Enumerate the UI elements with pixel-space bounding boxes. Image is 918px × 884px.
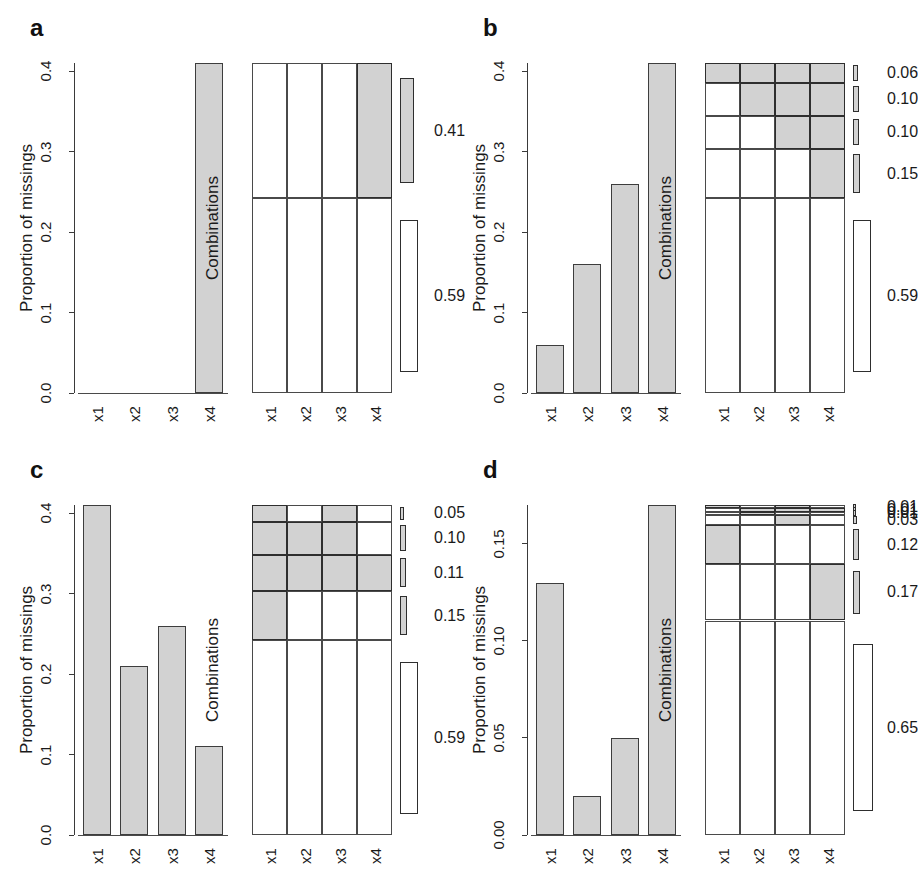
combination-col-label-text: x3	[784, 406, 801, 422]
combination-cell	[357, 198, 392, 393]
legend-proportion-bar	[400, 78, 414, 184]
combination-cell	[775, 149, 810, 199]
combination-cell	[740, 564, 775, 620]
combination-cell	[810, 525, 845, 565]
combination-cell	[740, 515, 775, 525]
combination-cell	[810, 564, 845, 620]
y-axis-title-combinations: Combinations	[202, 123, 224, 333]
combination-cell	[705, 149, 740, 199]
combination-cell	[252, 522, 287, 555]
combination-col-label-x3: x3	[325, 841, 355, 871]
combination-col-label-text: x1	[261, 406, 278, 422]
legend-proportion-label: 0.59	[887, 288, 918, 304]
combination-col-label-text: x2	[296, 848, 313, 864]
combination-col-label-x1: x1	[708, 399, 738, 429]
combination-cell	[287, 505, 322, 522]
combination-cell	[705, 198, 740, 393]
legend-proportion-bar	[853, 529, 859, 560]
combination-cell	[357, 505, 392, 522]
legend-proportion-label: 0.15	[887, 166, 918, 182]
legend-proportion-label: 0.06	[887, 65, 918, 81]
combination-cell	[705, 515, 740, 525]
combination-cell	[775, 63, 810, 83]
combination-cell	[252, 63, 287, 198]
legend-proportion-bar	[853, 220, 871, 372]
combination-cell	[357, 63, 392, 198]
combination-cell	[705, 525, 740, 565]
combination-col-label-text: x4	[366, 848, 383, 864]
legend-proportion-bar	[853, 644, 873, 811]
combinations-plot-d: Combinations0.010.010.010.030.120.170.65…	[453, 442, 906, 884]
legend-proportion-label: 0.65	[887, 720, 918, 736]
combination-col-label-x3: x3	[325, 399, 355, 429]
combination-cell	[252, 555, 287, 591]
combination-cell	[705, 63, 740, 83]
combination-cell	[287, 640, 322, 835]
combination-col-label-x2: x2	[743, 841, 773, 871]
combination-cell	[252, 505, 287, 522]
legend-proportion-label: 0.10	[887, 124, 918, 140]
combination-col-label-x1: x1	[255, 841, 285, 871]
y-axis-title-combinations: Combinations	[202, 565, 224, 775]
combination-cell	[740, 63, 775, 83]
legend-proportion-label: 0.03	[887, 512, 918, 528]
combination-cell	[775, 621, 810, 836]
combination-cell	[810, 515, 845, 525]
panel-c: cProportion of missings0.00.10.20.30.4x1…	[0, 442, 453, 884]
combinations-plot-c: Combinations0.050.100.110.150.59x1x2x3x4	[0, 442, 453, 884]
combination-cell	[322, 555, 357, 591]
combination-cell	[252, 198, 287, 393]
legend-proportion-bar	[853, 571, 860, 615]
combination-cell	[810, 63, 845, 83]
combination-cell	[322, 63, 357, 198]
combination-cell	[287, 555, 322, 591]
combination-col-label-x4: x4	[360, 399, 390, 429]
combination-cell	[775, 116, 810, 149]
legend-proportion-bar	[400, 596, 407, 635]
y-axis-title-combinations: Combinations	[655, 565, 677, 775]
legend-proportion-label: 0.12	[887, 537, 918, 553]
combination-cell	[252, 640, 287, 835]
combinations-plot-b: Combinations0.060.100.100.150.59x1x2x3x4	[453, 0, 906, 442]
panel-a: aProportion of missings0.00.10.20.30.4x1…	[0, 0, 453, 442]
combination-cell	[322, 198, 357, 393]
combination-col-label-x2: x2	[290, 841, 320, 871]
legend-proportion-bar	[853, 119, 859, 145]
combination-col-label-x1: x1	[255, 399, 285, 429]
combination-col-label-text: x3	[331, 406, 348, 422]
combination-cell	[287, 591, 322, 641]
combination-cell	[810, 149, 845, 199]
legend-proportion-bar	[400, 525, 406, 551]
combination-cell	[740, 198, 775, 393]
combination-cell	[705, 564, 740, 620]
combination-cell	[705, 83, 740, 116]
combination-col-label-text: x2	[296, 406, 313, 422]
combination-cell	[810, 116, 845, 149]
combination-cell	[287, 63, 322, 198]
combination-cell	[357, 640, 392, 835]
combination-cell	[740, 83, 775, 116]
panel-d: dProportion of missings0.000.050.100.15x…	[453, 442, 906, 884]
combination-cell	[287, 522, 322, 555]
combination-col-label-text: x3	[331, 848, 348, 864]
combination-col-label-text: x4	[819, 848, 836, 864]
combination-cell	[775, 564, 810, 620]
combination-cell	[322, 505, 357, 522]
combination-cell	[810, 621, 845, 836]
combination-cell	[740, 525, 775, 565]
combination-col-label-x4: x4	[813, 399, 843, 429]
combination-cell	[252, 591, 287, 641]
combination-cell	[322, 591, 357, 641]
legend-proportion-bar	[853, 65, 858, 80]
combination-col-label-text: x1	[714, 406, 731, 422]
combination-col-label-x2: x2	[743, 399, 773, 429]
combination-cell	[775, 198, 810, 393]
combination-col-label-x3: x3	[778, 841, 808, 871]
combination-cell	[740, 116, 775, 149]
combination-col-label-text: x2	[749, 406, 766, 422]
combination-col-label-x3: x3	[778, 399, 808, 429]
combination-cell	[357, 555, 392, 591]
legend-proportion-bar	[853, 154, 860, 193]
legend-proportion-bar	[853, 86, 859, 112]
combination-cell	[705, 116, 740, 149]
